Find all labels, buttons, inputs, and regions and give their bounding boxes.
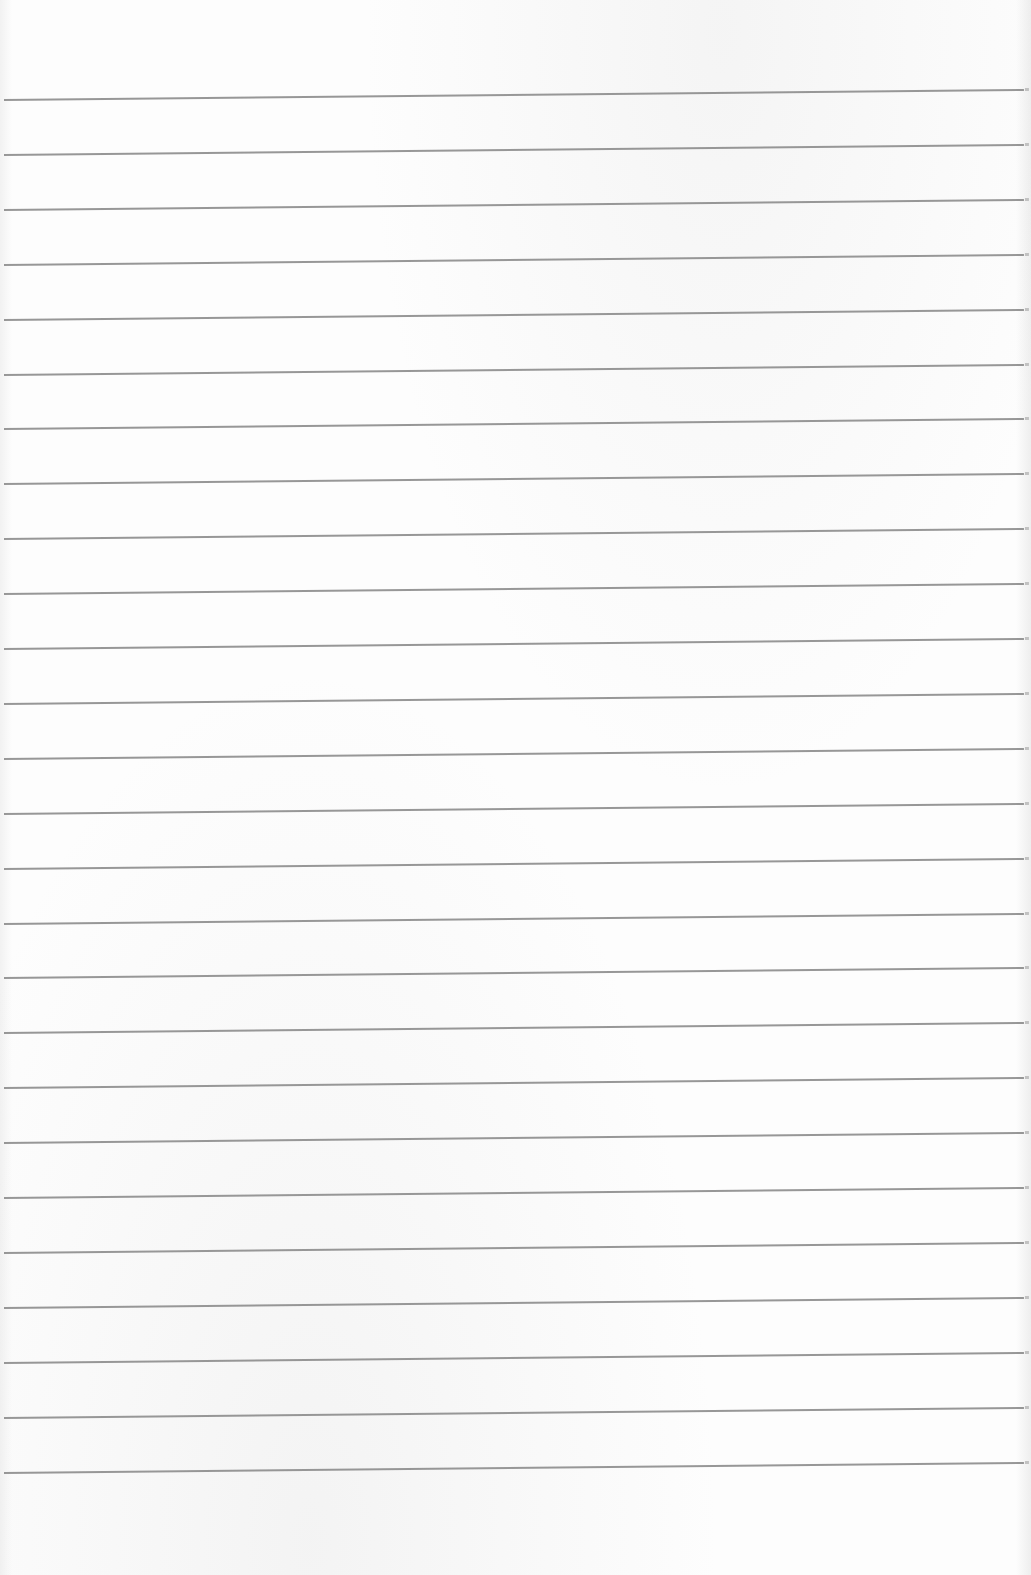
lined-paper-sheet xyxy=(0,0,1031,1575)
ruled-line xyxy=(4,1132,1024,1144)
ruled-line xyxy=(4,1462,1024,1474)
ruled-line xyxy=(4,1297,1024,1309)
ruled-line xyxy=(4,967,1024,979)
ruled-line xyxy=(4,89,1024,101)
ruled-line xyxy=(4,1187,1024,1199)
ruled-line xyxy=(4,858,1024,870)
ruled-line xyxy=(4,1022,1024,1034)
ruled-line xyxy=(4,254,1024,266)
ruled-line xyxy=(4,309,1024,321)
ruled-line xyxy=(4,748,1024,760)
ruled-line xyxy=(4,473,1024,485)
ruled-line xyxy=(4,364,1024,376)
ruled-line xyxy=(4,1352,1024,1364)
ruled-line xyxy=(4,144,1024,156)
ruled-line xyxy=(4,528,1024,540)
ruled-line xyxy=(4,913,1024,925)
ruled-line xyxy=(4,638,1024,650)
ruled-line xyxy=(4,1407,1024,1419)
ruled-line xyxy=(4,1242,1024,1254)
ruled-line xyxy=(4,693,1024,705)
ruled-line xyxy=(4,803,1024,815)
ruled-line xyxy=(4,418,1024,430)
ruled-line xyxy=(4,199,1024,211)
ruled-line xyxy=(4,583,1024,595)
ruled-line xyxy=(4,1077,1024,1089)
